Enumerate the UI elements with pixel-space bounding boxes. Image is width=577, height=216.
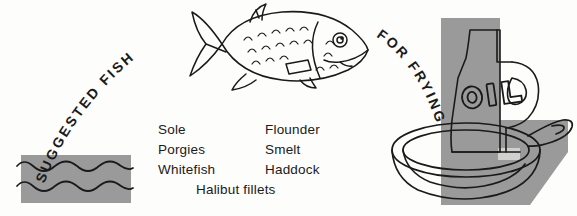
- list-item: Sole: [158, 120, 215, 140]
- list-item: Smelt: [265, 140, 320, 160]
- list-item: Flounder: [265, 120, 320, 140]
- headline-for-frying: FOR FRYING: [374, 26, 449, 126]
- fish-illustration: [190, 4, 368, 90]
- list-item: Halibut fillets: [196, 180, 276, 200]
- poster-canvas: SUGGESTED FISH FOR FRYING Sole Porgies W…: [0, 0, 577, 216]
- list-item: Whitefish: [158, 160, 215, 180]
- poster-artwork: SUGGESTED FISH FOR FRYING: [0, 0, 577, 216]
- list-item: Porgies: [158, 140, 215, 160]
- fish-list-left-column: Sole Porgies Whitefish: [158, 120, 215, 180]
- fish-list-right-column: Flounder Smelt Haddock: [265, 120, 320, 180]
- fish-list-footer: Halibut fillets: [196, 180, 276, 200]
- list-item: Haddock: [265, 160, 320, 180]
